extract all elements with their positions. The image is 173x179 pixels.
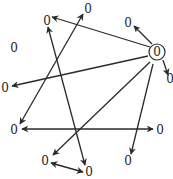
node-n7: 0 — [1, 81, 9, 95]
edge-n11-n12 — [51, 163, 83, 172]
node-label: 0 — [153, 45, 161, 59]
node-n6: 0 — [166, 72, 173, 86]
edge-hub-n3 — [134, 26, 152, 44]
node-n10: 0 — [124, 154, 132, 168]
node-label: 0 — [85, 165, 93, 179]
node-label: 0 — [10, 41, 18, 55]
edge-n8-n1 — [20, 14, 83, 124]
node-n8: 0 — [10, 123, 18, 137]
node-label: 0 — [43, 14, 51, 28]
node-n9: 0 — [156, 123, 164, 137]
node-label: 0 — [1, 81, 9, 95]
node-n11: 0 — [41, 154, 49, 168]
node-n12: 0 — [85, 165, 93, 179]
node-n3: 0 — [124, 16, 132, 30]
node-label: 0 — [166, 72, 173, 86]
node-label: 0 — [156, 123, 164, 137]
edge-hub-n7 — [12, 56, 148, 86]
directed-graph-diagram: 000000000000 — [0, 0, 173, 179]
node-layer: 000000000000 — [1, 2, 173, 179]
edge-layer — [12, 14, 168, 172]
node-label: 0 — [124, 154, 132, 168]
node-label: 0 — [41, 154, 49, 168]
node-n4: 0 — [10, 41, 18, 55]
node-n2: 0 — [43, 14, 51, 28]
node-label: 0 — [124, 16, 132, 30]
node-label: 0 — [10, 123, 18, 137]
node-label: 0 — [84, 2, 92, 16]
node-hub: 0 — [149, 44, 165, 60]
edge-n12-n2 — [48, 27, 85, 165]
node-n1: 0 — [84, 2, 92, 16]
edge-hub-n11 — [53, 62, 150, 155]
